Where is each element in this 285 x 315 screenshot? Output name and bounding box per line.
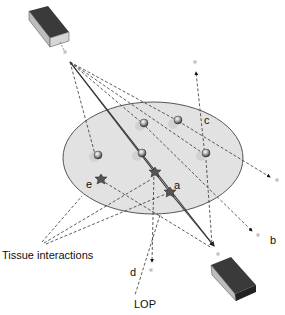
label-d: d — [130, 266, 136, 278]
label-tissue-interactions: Tissue interactions — [2, 249, 93, 261]
label-lop: LOP — [134, 298, 156, 310]
photon-dot-icon — [63, 50, 68, 55]
detector-top-left — [29, 6, 69, 55]
label-b: b — [270, 234, 276, 246]
photon-dot-icon — [216, 252, 221, 257]
detector-bottom-right — [211, 252, 256, 302]
label-c: c — [204, 114, 210, 126]
pet-scatter-diagram — [0, 0, 285, 315]
label-a: a — [174, 179, 180, 191]
label-e: e — [86, 178, 92, 190]
